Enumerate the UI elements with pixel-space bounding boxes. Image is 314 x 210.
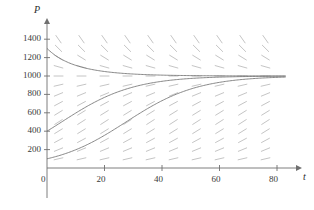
origin-label: 0 bbox=[41, 174, 46, 184]
slope-field-figure: 200400600800100012001400204060800 P t bbox=[0, 0, 314, 210]
x-tick-label: 60 bbox=[212, 174, 221, 184]
slope-field-segments bbox=[54, 36, 270, 160]
y-tick-label: 200 bbox=[28, 144, 42, 154]
x-tick-label: 40 bbox=[154, 174, 163, 184]
x-tick-label: 80 bbox=[269, 174, 278, 184]
x-axis-label: t bbox=[303, 171, 306, 182]
y-tick-label: 800 bbox=[28, 88, 42, 98]
axes bbox=[44, 18, 302, 198]
y-tick-label: 600 bbox=[28, 107, 42, 117]
y-tick-label: 1000 bbox=[23, 70, 41, 80]
y-tick-label: 1200 bbox=[23, 52, 41, 62]
x-tick-label: 20 bbox=[97, 174, 106, 184]
y-axis-label: P bbox=[34, 4, 40, 15]
solution-curves bbox=[47, 48, 286, 158]
y-tick-label: 400 bbox=[28, 125, 42, 135]
y-tick-label: 1400 bbox=[23, 33, 41, 43]
